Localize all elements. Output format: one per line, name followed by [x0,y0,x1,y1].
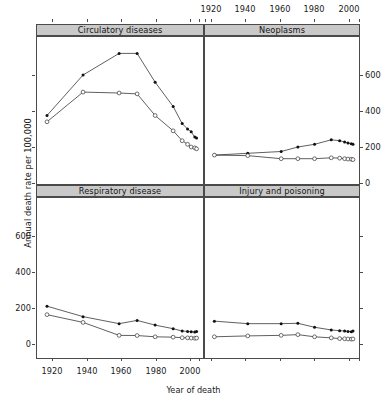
x-tick-top-1920: 1920 [201,4,222,14]
data-point-open-circle [351,337,355,341]
tick-top [199,19,200,22]
strip-injury-and-poisoning: Injury and poisoning [204,185,360,197]
data-point-filled-circle [343,140,346,143]
tick-top [349,19,350,22]
tick-right [360,344,363,345]
data-point-open-circle [246,154,250,158]
data-point-filled-circle [313,143,316,146]
data-point-filled-circle [186,128,189,131]
tick-left [32,111,35,112]
tick-right [360,272,363,273]
tick-top [156,19,157,22]
data-point-filled-circle [338,139,341,142]
data-point-open-circle [153,114,157,118]
data-point-filled-circle [195,137,198,140]
data-point-open-circle [117,91,121,95]
data-point-open-circle [296,333,300,337]
data-point-open-circle [186,336,190,340]
tick-left [32,75,35,76]
data-point-filled-circle [280,150,283,153]
data-point-filled-circle [351,330,354,333]
tick-right [360,75,363,76]
data-point-open-circle [313,335,317,339]
data-point-filled-circle [280,322,283,325]
tick-left [32,183,35,184]
data-point-filled-circle [213,320,216,323]
tick-top [359,19,360,22]
data-point-filled-circle [346,142,349,145]
tick-right [360,147,363,148]
panel-respiratory-disease [36,197,204,359]
strip-respiratory-disease: Respiratory disease [36,185,204,197]
data-point-filled-circle [118,52,121,55]
strip-neoplasms: Neoplasms [204,24,360,36]
data-point-open-circle [313,157,317,161]
x-tick-bottom-1940: 1940 [77,366,98,376]
data-point-open-circle [117,333,121,337]
data-point-open-circle [212,335,216,339]
data-point-filled-circle [181,122,184,125]
data-point-filled-circle [246,322,249,325]
series-line-open-circle [47,315,197,339]
data-point-filled-circle [351,143,354,146]
tick-top [121,19,122,22]
data-point-open-circle [171,129,175,133]
data-point-open-circle [338,337,342,341]
data-point-open-circle [329,156,333,160]
data-point-open-circle [195,147,199,151]
data-point-filled-circle [296,322,299,325]
y-tick-left-200: 200 [5,303,31,313]
x-tick-top-2000: 2000 [339,4,360,14]
data-point-open-circle [81,90,85,94]
data-point-filled-circle [172,327,175,330]
x-tick-top-1940: 1940 [235,4,256,14]
data-point-filled-circle [343,330,346,333]
tick-left [32,308,35,309]
strip-circulatory-diseases: Circulatory diseases [36,24,204,36]
data-point-open-circle [246,334,250,338]
tick-left [32,147,35,148]
data-point-open-circle [212,153,216,157]
tick-top [190,19,191,22]
series-line-open-circle [47,92,197,149]
data-point-open-circle [135,92,139,96]
data-point-filled-circle [136,319,139,322]
data-point-open-circle [180,336,184,340]
tick-left [32,236,35,237]
data-point-open-circle [45,120,49,124]
data-point-open-circle [153,335,157,339]
tick-top [314,19,315,22]
data-point-filled-circle [154,324,157,327]
series-line-filled-circle [214,140,353,155]
series-line-filled-circle [47,53,197,138]
data-point-open-circle [296,157,300,161]
panel-neoplasms [204,36,360,185]
tick-right [360,183,363,184]
data-point-filled-circle [46,305,49,308]
plot-area-neoplasms [205,37,359,184]
data-point-filled-circle [338,329,341,332]
data-point-open-circle [338,156,342,160]
data-point-filled-circle [296,146,299,149]
data-point-filled-circle [330,138,333,141]
data-point-open-circle [81,321,85,325]
data-point-filled-circle [313,326,316,329]
data-point-open-circle [180,139,184,143]
tick-top [205,19,206,22]
y-tick-right-600: 600 [365,70,381,80]
panel-circulatory-diseases [36,36,204,185]
tick-top [87,19,88,22]
x-tick-top-1980: 1980 [304,4,325,14]
data-point-filled-circle [172,105,175,108]
data-point-filled-circle [46,114,49,117]
y-tick-left-400: 400 [5,267,31,277]
data-point-filled-circle [154,81,157,84]
plot-area-injury [205,198,359,358]
tick-top [280,19,281,22]
data-point-filled-circle [181,330,184,333]
data-point-filled-circle [190,330,193,333]
data-point-open-circle [279,333,283,337]
tick-right [360,236,363,237]
data-point-open-circle [351,158,355,162]
tick-left [32,272,35,273]
